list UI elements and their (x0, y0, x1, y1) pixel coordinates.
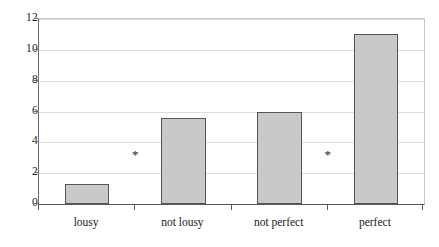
plot-area: ** (38, 18, 425, 205)
y-axis-tick-label: 8 (4, 74, 38, 85)
asterisk-marker-2: * (325, 151, 332, 159)
bar-not-perfect (257, 112, 301, 205)
x-axis: lousynot lousynot perfectperfect (38, 205, 425, 247)
bar-not-lousy (161, 118, 205, 204)
y-axis-tick-label: 0 (4, 197, 38, 208)
x-axis-tick-mark (134, 205, 135, 210)
y-axis-tick-label: 12 (4, 12, 38, 23)
gridline (39, 19, 424, 20)
x-axis-tick-label-not-lousy: not lousy (161, 215, 204, 229)
y-axis-tick-label: 6 (4, 105, 38, 116)
bar-lousy (65, 184, 109, 204)
x-axis-tick-label-not-perfect: not perfect (254, 215, 304, 229)
bar-perfect (354, 34, 398, 204)
asterisk-marker-1: * (132, 151, 139, 159)
y-axis-tick-label: 4 (4, 135, 38, 146)
x-axis-tick-label-lousy: lousy (74, 215, 99, 229)
bar-chart-figure: 121086420 ** lousynot lousynot perfectpe… (0, 0, 439, 247)
x-axis-tick-mark (38, 205, 39, 210)
y-axis-tick-label: 10 (4, 43, 38, 54)
y-axis-tick-label: 2 (4, 166, 38, 177)
x-axis-tick-mark (422, 205, 423, 210)
x-axis-tick-mark (231, 205, 232, 210)
x-axis-tick-label-perfect: perfect (359, 215, 391, 229)
x-axis-tick-mark (327, 205, 328, 210)
y-axis: 121086420 (0, 18, 38, 205)
